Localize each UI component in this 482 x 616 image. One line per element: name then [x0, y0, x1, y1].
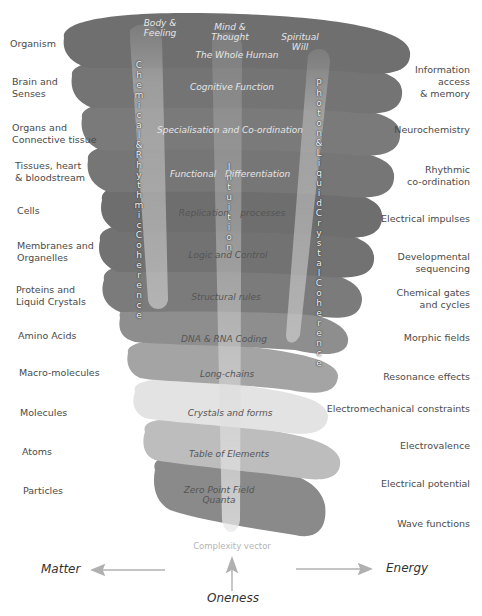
layer-label-specialisation: Specialisation and Co-ordination — [157, 125, 303, 135]
left-label-membranes: Membranes and Organelles — [17, 240, 94, 264]
vertical-text-photon-liquid-crystal-coherence: P h o t o n & L i q u i d C r y s t a l … — [313, 78, 325, 368]
left-label-amino: Amino Acids — [18, 330, 76, 342]
left-label-cells: Cells — [17, 205, 40, 217]
right-label-electromechanical: Electromechanical constraints — [327, 403, 470, 415]
right-label-electrical-potential: Electrical potential — [381, 478, 470, 490]
right-label-electrovalence: Electrovalence — [400, 440, 470, 452]
diagram-stage: Organism Brain and Senses Organs and Con… — [0, 0, 482, 616]
layer-label-dna: DNA & RNA Coding — [181, 334, 267, 344]
right-label-morphic: Morphic fields — [404, 332, 470, 344]
layer-label-cognitive: Cognitive Function — [190, 82, 274, 92]
right-label-resonance: Resonance effects — [383, 371, 470, 383]
layer-label-table-elements: Table of Elements — [189, 449, 269, 459]
layer-label-structural: Structural rules — [191, 292, 261, 302]
left-label-organism: Organism — [10, 38, 56, 50]
oneness-label: Oneness — [207, 591, 259, 605]
left-label-atoms: Atoms — [22, 446, 52, 458]
vertical-text-intuition: I n t u i t i o n — [223, 162, 235, 252]
heading-body-feeling: Body & Feeling — [144, 18, 177, 38]
vertical-text-chemical-rhythmic-coherence: C h e m i c a l & R h y t h m i c C o h … — [133, 60, 145, 320]
left-label-proteins: Proteins and Liquid Crystals — [16, 284, 86, 308]
matter-label: Matter — [41, 562, 80, 576]
energy-arrowhead — [359, 564, 371, 574]
matter-arrowhead — [92, 565, 104, 575]
energy-label: Energy — [386, 561, 428, 575]
left-label-organs: Organs and Connective tissue — [12, 122, 97, 146]
right-label-chemical-gates: Chemical gates and cycles — [397, 287, 470, 311]
layer-label-crystals: Crystals and forms — [188, 408, 273, 418]
layer-label-whole-human: The Whole Human — [195, 50, 278, 60]
right-label-developmental: Developmental sequencing — [398, 251, 470, 275]
layer-label-long-chains: Long-chains — [200, 369, 254, 379]
right-label-rhythmic: Rhythmic co-ordination — [407, 164, 470, 188]
left-label-brain: Brain and Senses — [12, 76, 58, 100]
axis-arrows — [92, 558, 371, 591]
left-label-molecules: Molecules — [20, 407, 67, 419]
left-label-macro: Macro-molecules — [19, 367, 100, 379]
left-label-particles: Particles — [23, 485, 63, 497]
right-label-information: Information access & memory — [415, 64, 470, 100]
heading-mind-thought: Mind & Thought — [211, 22, 248, 42]
right-label-neurochemistry: Neurochemistry — [394, 124, 470, 136]
right-label-electrical-impulses: Electrical impulses — [381, 213, 470, 225]
layer-label-zero-point: Zero Point Field Quanta — [184, 485, 255, 505]
left-label-tissues: Tissues, heart & bloodstream — [15, 160, 85, 184]
heading-spiritual-will: Spiritual Will — [281, 32, 318, 52]
complexity-vector-label: Complexity vector — [193, 541, 271, 551]
right-label-wave-functions: Wave functions — [397, 518, 470, 530]
